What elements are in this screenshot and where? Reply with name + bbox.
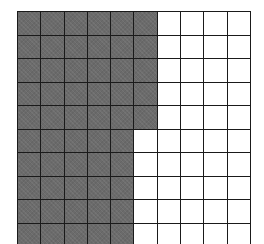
grid-cell-shaded: [65, 12, 88, 36]
grid-cell-empty: [134, 224, 157, 244]
grid-cell-shaded: [88, 83, 111, 107]
grid-cell-empty: [181, 106, 204, 130]
grid-cell-empty: [134, 153, 157, 177]
grid-cell-empty: [228, 224, 251, 244]
grid-cell-empty: [228, 83, 251, 107]
grid-cell-shaded: [111, 83, 134, 107]
grid-cell-shaded: [88, 200, 111, 224]
grid-cell-empty: [204, 59, 227, 83]
grid-cell-shaded: [65, 106, 88, 130]
grid-cell-shaded: [41, 83, 64, 107]
grid-cell-shaded: [134, 59, 157, 83]
grid-cell-shaded: [65, 200, 88, 224]
grid-cell-empty: [204, 153, 227, 177]
grid-cell-empty: [204, 83, 227, 107]
grid-cell-shaded: [18, 59, 41, 83]
grid-cell-empty: [158, 36, 181, 60]
grid-cell-empty: [228, 130, 251, 154]
grid-cell-shaded: [111, 36, 134, 60]
grid-cell-empty: [204, 200, 227, 224]
grid-cell-shaded: [134, 36, 157, 60]
hundred-grid: [17, 11, 251, 244]
grid-cell-empty: [204, 106, 227, 130]
grid-cell-empty: [158, 12, 181, 36]
grid-cell-shaded: [18, 224, 41, 244]
grid-cell-shaded: [41, 12, 64, 36]
grid-cell-shaded: [18, 106, 41, 130]
grid-cell-shaded: [18, 177, 41, 201]
grid-cell-empty: [181, 177, 204, 201]
grid-cell-empty: [204, 177, 227, 201]
grid-cell-shaded: [41, 36, 64, 60]
grid-cell-shaded: [111, 224, 134, 244]
grid-cell-empty: [158, 106, 181, 130]
grid-cell-shaded: [134, 12, 157, 36]
grid-cell-shaded: [41, 153, 64, 177]
grid-cell-shaded: [134, 106, 157, 130]
grid-cell-empty: [228, 59, 251, 83]
grid-cell-shaded: [65, 177, 88, 201]
grid-cell-shaded: [111, 153, 134, 177]
grid-cell-shaded: [88, 130, 111, 154]
grid-cell-shaded: [41, 130, 64, 154]
grid-cell-shaded: [111, 59, 134, 83]
grid-cell-empty: [228, 12, 251, 36]
grid-cell-shaded: [18, 153, 41, 177]
figure-canvas: [0, 0, 264, 244]
grid-cell-empty: [228, 177, 251, 201]
grid-cell-shaded: [88, 12, 111, 36]
grid-cell-empty: [228, 153, 251, 177]
grid-cell-shaded: [65, 59, 88, 83]
grid-cell-shaded: [88, 106, 111, 130]
grid-cell-shaded: [65, 36, 88, 60]
grid-cell-empty: [158, 83, 181, 107]
grid-cell-empty: [158, 59, 181, 83]
grid-cell-empty: [228, 36, 251, 60]
grid-cell-empty: [204, 130, 227, 154]
grid-cell-shaded: [88, 36, 111, 60]
grid-cell-shaded: [41, 224, 64, 244]
grid-cell-shaded: [41, 177, 64, 201]
grid-cell-empty: [158, 177, 181, 201]
grid-cell-shaded: [111, 12, 134, 36]
grid-cell-empty: [158, 153, 181, 177]
grid-cell-empty: [134, 200, 157, 224]
grid-cell-shaded: [18, 36, 41, 60]
grid-cell-shaded: [18, 200, 41, 224]
grid-cell-empty: [181, 224, 204, 244]
grid-cell-shaded: [65, 130, 88, 154]
grid-cell-shaded: [18, 12, 41, 36]
grid-cell-shaded: [111, 130, 134, 154]
grid-cell-empty: [181, 83, 204, 107]
grid-cell-shaded: [111, 177, 134, 201]
grid-cell-empty: [204, 36, 227, 60]
grid-cell-empty: [134, 130, 157, 154]
grid-cell-shaded: [65, 83, 88, 107]
grid-cell-empty: [158, 130, 181, 154]
grid-cell-empty: [181, 12, 204, 36]
grid-cell-shaded: [41, 106, 64, 130]
grid-cell-shaded: [88, 177, 111, 201]
grid-cell-empty: [158, 224, 181, 244]
grid-cell-shaded: [18, 130, 41, 154]
grid-cell-shaded: [18, 83, 41, 107]
grid-cell-empty: [204, 12, 227, 36]
grid-cell-shaded: [88, 59, 111, 83]
grid-cell-shaded: [88, 224, 111, 244]
grid-cell-empty: [134, 177, 157, 201]
grid-cell-shaded: [111, 200, 134, 224]
grid-cell-shaded: [88, 153, 111, 177]
grid-cell-empty: [181, 36, 204, 60]
grid-cell-shaded: [65, 224, 88, 244]
grid-cell-empty: [181, 200, 204, 224]
grid-cell-shaded: [65, 153, 88, 177]
grid-cell-shaded: [41, 200, 64, 224]
grid-cell-empty: [181, 59, 204, 83]
grid-cell-shaded: [134, 83, 157, 107]
grid-cell-empty: [181, 153, 204, 177]
grid-cell-empty: [228, 200, 251, 224]
grid-cell-empty: [228, 106, 251, 130]
grid-cell-empty: [204, 224, 227, 244]
grid-cell-empty: [158, 200, 181, 224]
grid-cell-empty: [181, 130, 204, 154]
